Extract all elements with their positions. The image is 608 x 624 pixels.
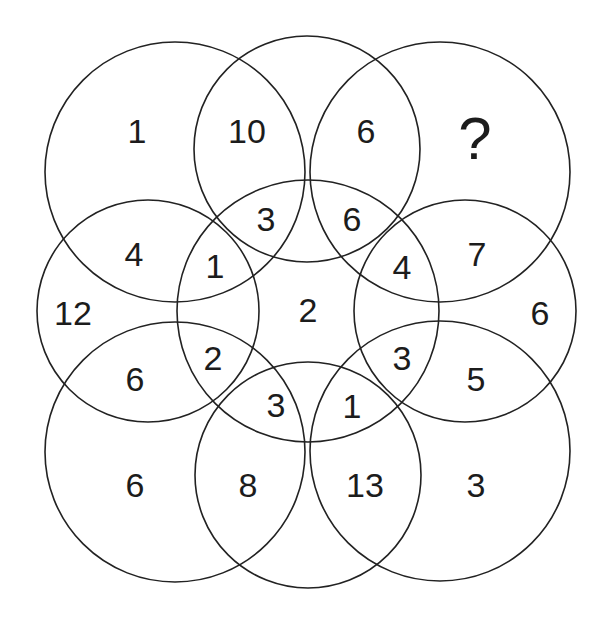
- circle-top-right: [310, 42, 570, 302]
- circle-bottom: [195, 362, 421, 588]
- region-number-bottom-left-ov: 8: [239, 466, 258, 504]
- region-number-right-outer: 6: [531, 294, 550, 332]
- numbers-group: 1106?436714122623653168133: [54, 105, 549, 505]
- region-number-tl-left-ov: 4: [125, 235, 144, 273]
- circle-bottom-right: [310, 321, 570, 581]
- region-number-center-bot-r: 1: [343, 387, 362, 425]
- circle-top-left: [45, 42, 305, 302]
- region-number-left-outer: 12: [54, 294, 92, 332]
- region-number-top-right-ov: 6: [357, 112, 376, 150]
- circle-bottom-left: [45, 322, 305, 582]
- region-number-center-bot-l: 3: [267, 386, 286, 424]
- region-number-center-right-b: 3: [393, 339, 412, 377]
- region-number-bottom-right-ov: 13: [346, 466, 384, 504]
- region-number-center-top-l: 3: [257, 200, 276, 238]
- region-number-center-top-r: 6: [343, 200, 362, 238]
- venn-puzzle: 1106?436714122623653168133: [0, 0, 608, 624]
- region-number-tr-right-ov: 7: [468, 235, 487, 273]
- region-number-center: 2: [299, 291, 318, 329]
- region-number-bl-outer: 6: [126, 466, 145, 504]
- missing-number-question-mark: ?: [458, 105, 491, 172]
- region-number-top-left-ov: 10: [228, 112, 266, 150]
- region-number-center-left-b: 2: [204, 339, 223, 377]
- region-number-br-right-ov: 5: [467, 360, 486, 398]
- region-number-bl-left-ov: 6: [126, 360, 145, 398]
- region-number-br-outer: 3: [467, 466, 486, 504]
- region-number-center-left-t: 1: [206, 247, 225, 285]
- circle-diagram: 1106?436714122623653168133: [0, 0, 608, 624]
- region-number-center-right-t: 4: [393, 248, 412, 286]
- region-number-tl-outer: 1: [128, 112, 147, 150]
